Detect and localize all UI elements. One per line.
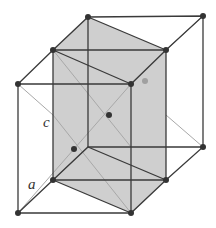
hcp-crystal-diagram xyxy=(0,0,216,228)
lattice-parameter-a-label: a xyxy=(28,176,36,193)
lattice-parameter-c-label: c xyxy=(43,114,50,131)
